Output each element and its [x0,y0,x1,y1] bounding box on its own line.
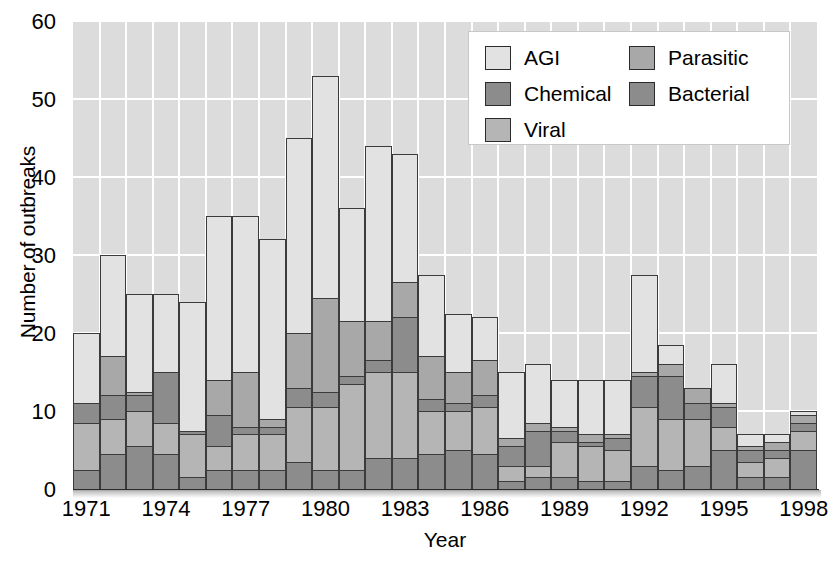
bar-segment-viral [418,411,445,455]
bar-1974[interactable] [153,295,180,490]
bar-1980[interactable] [312,77,339,490]
legend-item-bacterial[interactable]: Bacterial [629,78,750,110]
chart-legend: AGIChemicalViral ParasiticBacterial [468,31,790,145]
bar-segment-viral [153,423,180,455]
bar-segment-bacterial [365,458,392,490]
bar-1993[interactable] [658,346,685,490]
bar-segment-bacterial [392,458,419,490]
bar-segment-viral [126,411,153,447]
bar-segment-bacterial [259,470,286,491]
bar-1976[interactable] [206,217,233,490]
bar-segment-viral [100,419,127,455]
y-tick-label: 60 [0,11,56,33]
bar-segment-viral [339,384,366,471]
x-tick-label: 1995 [679,496,769,522]
bar-1984[interactable] [418,276,445,491]
bar-1988[interactable] [525,365,552,490]
bar-1987[interactable] [498,373,525,490]
bar-segment-viral [737,462,764,479]
bar-1977[interactable] [232,217,259,490]
legend-item-viral[interactable]: Viral [485,114,612,146]
bar-1992[interactable] [631,276,658,491]
bar-segment-agi [232,216,259,373]
bar-segment-agi [551,380,578,428]
bar-segment-viral [365,372,392,459]
bar-segment-chemical [551,431,578,444]
bar-1991[interactable] [604,381,631,490]
bar-segment-agi [73,333,100,404]
bar-segment-chemical [711,407,738,428]
legend-label: AGI [524,46,560,70]
bar-segment-parasitic [339,321,366,377]
bar-segment-parasitic [498,438,525,447]
bar-segment-agi [286,138,313,334]
bar-1979[interactable] [286,139,313,490]
legend-swatch-icon [485,82,511,106]
bar-segment-parasitic [232,372,259,428]
bar-segment-bacterial [312,470,339,491]
bar-1996[interactable] [737,435,764,490]
y-tick-label: 50 [0,89,56,111]
bar-segment-viral [392,372,419,459]
legend-swatch-icon [629,46,655,70]
bar-segment-agi [153,294,180,373]
bar-1982[interactable] [365,147,392,490]
bar-segment-bacterial [711,450,738,490]
bar-segment-chemical [259,427,286,436]
legend-label: Chemical [524,82,612,106]
x-tick-label: 1992 [599,496,689,522]
bar-segment-viral [232,434,259,470]
bar-segment-viral [525,466,552,479]
bar-segment-viral [631,407,658,467]
bar-1985[interactable] [445,315,472,491]
bar-segment-chemical [339,376,366,385]
bar-segment-bacterial [153,454,180,490]
bar-1986[interactable] [472,318,499,490]
bar-1978[interactable] [259,240,286,490]
bar-segment-viral [206,446,233,470]
bar-segment-agi [392,154,419,284]
bar-segment-chemical [153,372,180,424]
bar-1998[interactable] [790,412,817,490]
legend-item-parasitic[interactable]: Parasitic [629,42,750,74]
bar-segment-agi [578,380,605,436]
y-tick-label: 20 [0,323,56,345]
bar-1994[interactable] [684,389,711,490]
chart-figure: Number of outbreaks 0102030405060 197119… [0,0,839,561]
bar-segment-parasitic [100,356,127,396]
y-tick-label: 40 [0,167,56,189]
bar-segment-agi [658,345,685,366]
bar-segment-chemical [73,403,100,424]
bar-1983[interactable] [392,155,419,490]
bar-1981[interactable] [339,209,366,490]
bar-segment-agi [604,380,631,436]
x-axis-label: Year [73,528,817,552]
bar-segment-chemical [631,376,658,408]
bar-1972[interactable] [100,256,127,490]
bar-1975[interactable] [179,303,206,490]
bar-segment-chemical [498,446,525,467]
bar-segment-chemical [126,395,153,412]
bar-segment-parasitic [472,360,499,396]
x-tick-label: 1986 [440,496,530,522]
bar-1973[interactable] [126,295,153,490]
bar-1990[interactable] [578,381,605,490]
bar-1989[interactable] [551,381,578,490]
bar-1971[interactable] [73,334,100,490]
bar-segment-chemical [392,317,419,373]
bar-segment-chemical [604,438,631,451]
bar-segment-chemical [525,431,552,467]
bar-segment-chemical [206,415,233,447]
bar-segment-bacterial [472,454,499,490]
bar-segment-agi [764,434,791,443]
legend-item-chemical[interactable]: Chemical [485,78,612,110]
bar-1997[interactable] [764,435,791,490]
bar-segment-agi [525,364,552,424]
bar-segment-parasitic [764,442,791,451]
bar-segment-parasitic [259,419,286,428]
bar-1995[interactable] [711,365,738,490]
bar-segment-agi [339,208,366,322]
y-axis-label: Number of outbreaks [16,77,40,407]
x-tick-label: 1977 [201,496,291,522]
legend-item-agi[interactable]: AGI [485,42,612,74]
